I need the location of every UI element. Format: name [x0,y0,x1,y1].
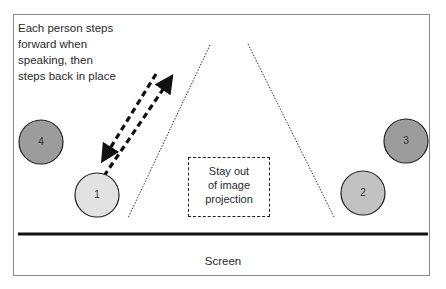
person-1-label: 1 [87,189,107,201]
no-go-zone-label: Stay out of image projection [189,164,269,206]
person-2-label: 2 [353,187,373,199]
step-forward-arrow [104,82,168,176]
zone-line: of image [189,178,269,192]
step-back-arrow [106,74,156,155]
screen-label: Screen [0,255,446,267]
zone-line: Stay out [189,164,269,178]
stage-drawing [0,0,446,289]
zone-line: projection [189,192,269,206]
person-4-label: 4 [31,136,51,148]
person-3-label: 3 [396,135,416,147]
no-go-zone: Stay out of image projection [188,157,270,217]
